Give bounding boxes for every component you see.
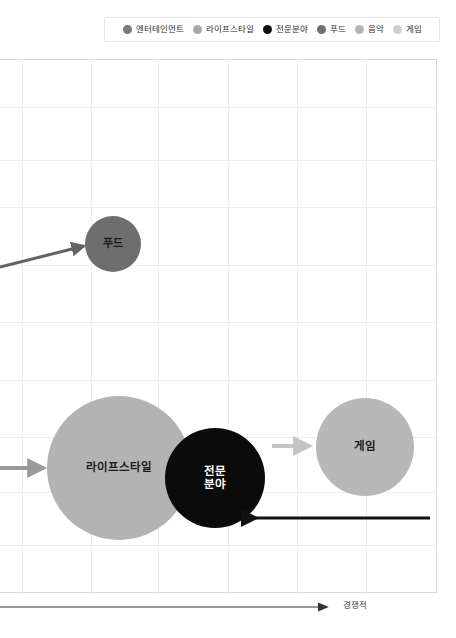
bubble-food[interactable]: 푸드 <box>85 216 141 272</box>
gridline-horizontal <box>0 545 437 546</box>
x-axis-label: 경쟁적 <box>343 601 367 610</box>
gridline-vertical <box>297 59 298 593</box>
legend-item-music[interactable]: 음악 <box>355 25 384 34</box>
gridline-horizontal <box>0 322 437 323</box>
legend-dot-icon <box>317 25 326 34</box>
legend-dot-icon <box>393 25 402 34</box>
bubble-specialty[interactable]: 전문 분야 <box>165 428 265 528</box>
legend: 엔터테인먼트 라이프스타일 전문분야 푸드 음악 게임 <box>104 17 440 42</box>
gridline-vertical <box>22 59 23 593</box>
legend-dot-icon <box>193 25 202 34</box>
bubble-food-label: 푸드 <box>103 238 123 251</box>
gridline-horizontal <box>0 160 437 161</box>
legend-item-label: 엔터테인먼트 <box>136 25 184 34</box>
bubble-game-label: 게임 <box>354 440 376 453</box>
legend-item-label: 음악 <box>368 25 384 34</box>
gridline-horizontal <box>0 380 437 381</box>
legend-item-label: 게임 <box>406 25 422 34</box>
legend-item-lifestyle[interactable]: 라이프스타일 <box>193 25 254 34</box>
bubble-specialty-label: 전문 분야 <box>204 465 226 491</box>
gridline-horizontal <box>0 265 437 266</box>
legend-item-game[interactable]: 게임 <box>393 25 422 34</box>
legend-item-label: 라이프스타일 <box>206 25 254 34</box>
bubble-lifestyle-label: 라이프스타일 <box>86 461 152 474</box>
chart-plot-area: 게임 푸드 라이프스타일 전문 분야 <box>0 59 437 593</box>
legend-item-entertainment[interactable]: 엔터테인먼트 <box>123 25 184 34</box>
legend-dot-icon <box>355 25 364 34</box>
gridline-horizontal <box>0 207 437 208</box>
legend-item-food[interactable]: 푸드 <box>317 25 346 34</box>
gridline-vertical <box>366 59 367 593</box>
legend-item-label: 전문분야 <box>276 25 308 34</box>
legend-dot-icon <box>123 25 132 34</box>
legend-item-label: 푸드 <box>330 25 346 34</box>
gridline-horizontal <box>0 107 437 108</box>
legend-dot-icon <box>263 25 272 34</box>
legend-item-specialty[interactable]: 전문분야 <box>263 25 308 34</box>
bubble-game[interactable]: 게임 <box>316 398 414 496</box>
